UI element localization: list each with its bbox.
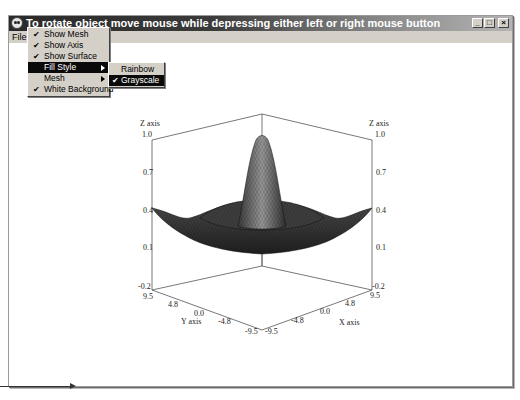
svg-text:Z axis: Z axis (369, 119, 389, 128)
z-axis-left: Z axis 1.0 0.7 0.4 0.1 -0.2 (138, 119, 160, 291)
check-icon: ✔ (33, 84, 40, 95)
svg-text:0.1: 0.1 (376, 243, 386, 252)
arrow-icon (70, 383, 76, 389)
svg-text:-0.2: -0.2 (372, 282, 385, 291)
submenu-arrow-icon (101, 76, 105, 82)
submenu-arrow-icon (101, 65, 105, 71)
menu-item-fill-style[interactable]: Fill Style (28, 62, 109, 73)
menu-item-show-surface[interactable]: ✔Show Surface (28, 51, 109, 62)
menu-item-show-mesh[interactable]: ✔Show Mesh (28, 29, 109, 40)
svg-text:-4.8: -4.8 (291, 316, 304, 325)
svg-text:0.0: 0.0 (320, 307, 330, 316)
svg-text:0.7: 0.7 (376, 168, 386, 177)
svg-text:Y axis: Y axis (181, 317, 201, 326)
fill-style-submenu: Rainbow ✔Grayscale (108, 62, 165, 88)
svg-text:1.0: 1.0 (375, 130, 385, 139)
svg-text:0.4: 0.4 (143, 206, 153, 215)
menu-item-show-axis[interactable]: ✔Show Axis (28, 40, 109, 51)
x-axis: -9.5 -4.8 0.0 X axis 4.8 9.5 (265, 291, 380, 336)
check-icon: ✔ (33, 29, 40, 40)
check-icon: ✔ (112, 75, 119, 86)
svg-text:0.7: 0.7 (143, 168, 153, 177)
menu-item-white-background[interactable]: ✔White Background (28, 84, 109, 95)
submenu-item-grayscale[interactable]: ✔Grayscale (109, 75, 164, 86)
svg-text:-9.5: -9.5 (265, 327, 278, 336)
check-icon: ✔ (33, 40, 40, 51)
y-axis: 9.5 4.8 0.0 Y axis -4.8 -9.5 (143, 292, 258, 336)
drag-line (0, 386, 72, 387)
check-icon: ✔ (33, 51, 40, 62)
submenu-item-rainbow[interactable]: Rainbow (109, 64, 164, 75)
svg-text:1.0: 1.0 (142, 130, 152, 139)
svg-text:-4.8: -4.8 (218, 317, 231, 326)
svg-text:Z axis: Z axis (140, 119, 160, 128)
svg-text:-9.5: -9.5 (245, 327, 258, 336)
svg-text:-0.2: -0.2 (138, 282, 151, 291)
sinc-surface (152, 136, 372, 255)
svg-text:0.4: 0.4 (376, 206, 386, 215)
svg-text:9.5: 9.5 (370, 291, 380, 300)
svg-text:4.8: 4.8 (345, 299, 355, 308)
svg-text:9.5: 9.5 (143, 292, 153, 301)
svg-text:0.1: 0.1 (143, 243, 153, 252)
svg-text:4.8: 4.8 (168, 300, 178, 309)
menu-item-mesh[interactable]: Mesh (28, 73, 109, 84)
svg-text:X axis: X axis (339, 318, 360, 327)
options-dropdown-menu: ✔Show Mesh ✔Show Axis ✔Show Surface Fill… (27, 27, 110, 97)
